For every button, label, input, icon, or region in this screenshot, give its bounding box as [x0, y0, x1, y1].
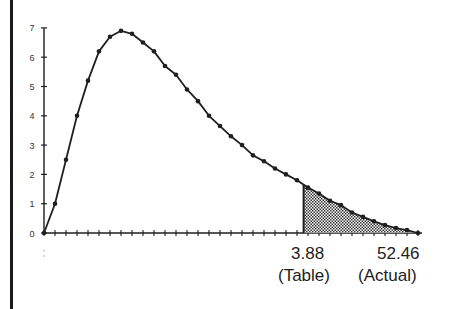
actual-value-label: 52.46 — [377, 244, 420, 264]
svg-text:7: 7 — [29, 23, 34, 33]
svg-text:2: 2 — [29, 170, 34, 180]
table-caption-label: (Table) — [278, 266, 330, 286]
svg-text:0: 0 — [29, 229, 34, 239]
actual-caption-label: (Actual) — [358, 266, 417, 286]
table-value-label: 3.88 — [291, 244, 324, 264]
svg-text:4: 4 — [29, 111, 34, 121]
svg-text:3: 3 — [29, 141, 34, 151]
y-axis — [41, 28, 47, 233]
shaded-tail-region — [304, 185, 418, 233]
y-tick-labels: 01234567 — [29, 23, 34, 238]
svg-text:6: 6 — [29, 53, 34, 63]
distribution-curve — [42, 29, 421, 236]
dotted-mark — [43, 250, 44, 256]
svg-text:5: 5 — [29, 82, 34, 92]
svg-text:1: 1 — [29, 199, 34, 209]
